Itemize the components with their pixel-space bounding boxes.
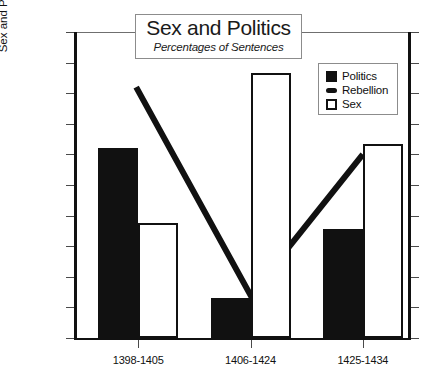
y-tick-right [411, 93, 419, 94]
legend: PoliticsRebellionSex [318, 63, 398, 115]
y-tick [66, 307, 74, 308]
chart-figure: 0102030405060708090100 1398-14051406-142… [0, 0, 435, 383]
y-tick-right [411, 246, 419, 247]
bar-sex [363, 144, 403, 338]
y-axis-title-line-2: Sex and Political Crimes [0, 0, 10, 90]
y-axis-title: Percentages of Sentences Sex and Politic… [0, 0, 10, 90]
x-tick-label: 1406-1424 [191, 354, 311, 366]
y-tick [66, 246, 74, 247]
y-tick-right [411, 216, 419, 217]
bar-sex [251, 73, 291, 338]
y-tick [66, 63, 74, 64]
open-square-icon [326, 99, 337, 110]
legend-item: Rebellion [326, 83, 397, 97]
title-box: Sex and Politics Percentages of Sentence… [135, 14, 302, 59]
legend-label: Politics [342, 70, 377, 83]
y-tick-right [411, 185, 419, 186]
bar-sex [138, 223, 178, 338]
legend-item: Sex [326, 97, 397, 111]
y-tick [66, 32, 74, 33]
y-tick-right [411, 63, 419, 64]
y-tick [66, 93, 74, 94]
x-tick [251, 340, 252, 348]
y-tick [66, 185, 74, 186]
y-tick-right [411, 124, 419, 125]
y-tick [66, 338, 74, 339]
x-tick-label: 1425-1434 [303, 354, 423, 366]
x-tick [363, 340, 364, 348]
y-tick [66, 277, 74, 278]
thick-line-icon [326, 85, 337, 96]
y-tick-right [411, 32, 419, 33]
y-tick-right [411, 338, 419, 339]
filled-square-icon [326, 71, 337, 82]
legend-label: Rebellion [342, 84, 388, 97]
chart-subtitle: Percentages of Sentences [136, 40, 301, 54]
y-tick [66, 216, 74, 217]
y-tick-right [411, 277, 419, 278]
chart-title: Sex and Politics [136, 16, 301, 40]
y-tick [66, 124, 74, 125]
x-tick [138, 340, 139, 348]
y-tick [66, 154, 74, 155]
y-tick-right [411, 307, 419, 308]
x-tick-label: 1398-1405 [78, 354, 198, 366]
legend-label: Sex [342, 98, 361, 111]
y-tick-right [411, 154, 419, 155]
legend-item: Politics [326, 69, 397, 83]
